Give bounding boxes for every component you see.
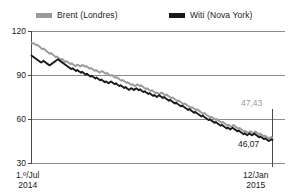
plot-area [0,0,288,194]
chart-root: Brent (Londres) Witi (Nova York) 120 90 … [0,0,288,194]
x-axis-tick-date: 12/Jan [243,170,269,180]
wti-end-value-label: 46,07 [238,140,259,149]
x-axis-tick-date: 1.º/Jul [16,170,39,180]
y-axis-tick-label: 90 [4,71,26,80]
x-axis-tick-year: 2014 [16,180,39,190]
y-axis-tick-label: 120 [4,27,26,36]
y-axis-tick-label: 60 [4,115,26,124]
chart-svg [0,0,288,194]
series-line-brent [32,43,273,139]
y-axis-tick-label: 30 [4,159,26,168]
x-axis-tick-year: 2015 [243,180,269,190]
x-axis-tick-label-start: 1.º/Jul 2014 [16,170,39,190]
x-axis-tick-label-end: 12/Jan 2015 [243,170,269,190]
brent-end-value-label: 47,43 [241,99,262,108]
